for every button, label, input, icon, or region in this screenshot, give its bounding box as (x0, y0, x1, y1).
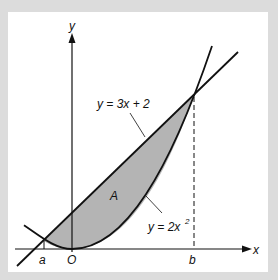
line-equation-label: y = 3x + 2 (96, 97, 150, 111)
parabola-exponent-label: 2 (184, 217, 190, 226)
line-label-leader (130, 113, 145, 137)
x-axis-label: x (252, 243, 260, 257)
line-curve (17, 52, 238, 266)
y-axis-label: y (68, 19, 76, 33)
x-axis-arrow-icon (242, 246, 252, 253)
parabola-label-leader (146, 196, 162, 213)
point-a-label: a (39, 253, 46, 267)
parabola-equation-label: y = 2x (147, 220, 181, 234)
area-between-curves-diagram: y x O a b A y = 3x + 2 y = 2x 2 (0, 0, 278, 280)
y-axis-arrow-icon (69, 33, 76, 43)
point-b-label: b (189, 253, 196, 267)
region-A-label: A (109, 189, 118, 203)
origin-label: O (67, 253, 76, 267)
